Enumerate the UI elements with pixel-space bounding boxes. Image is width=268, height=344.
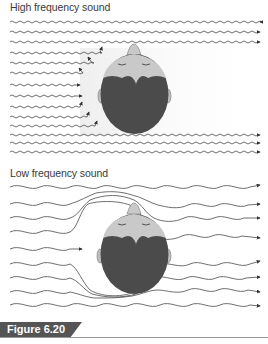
figure-label-tab: Figure 6.20 [0,322,70,338]
low-frequency-panel [10,185,260,306]
figure-number: Figure 6.20 [7,323,65,335]
head-top-view-low [97,203,171,294]
high-frequency-panel [10,21,268,153]
figure-rule [0,337,268,338]
low-frequency-title: Low frequency sound [10,167,108,179]
